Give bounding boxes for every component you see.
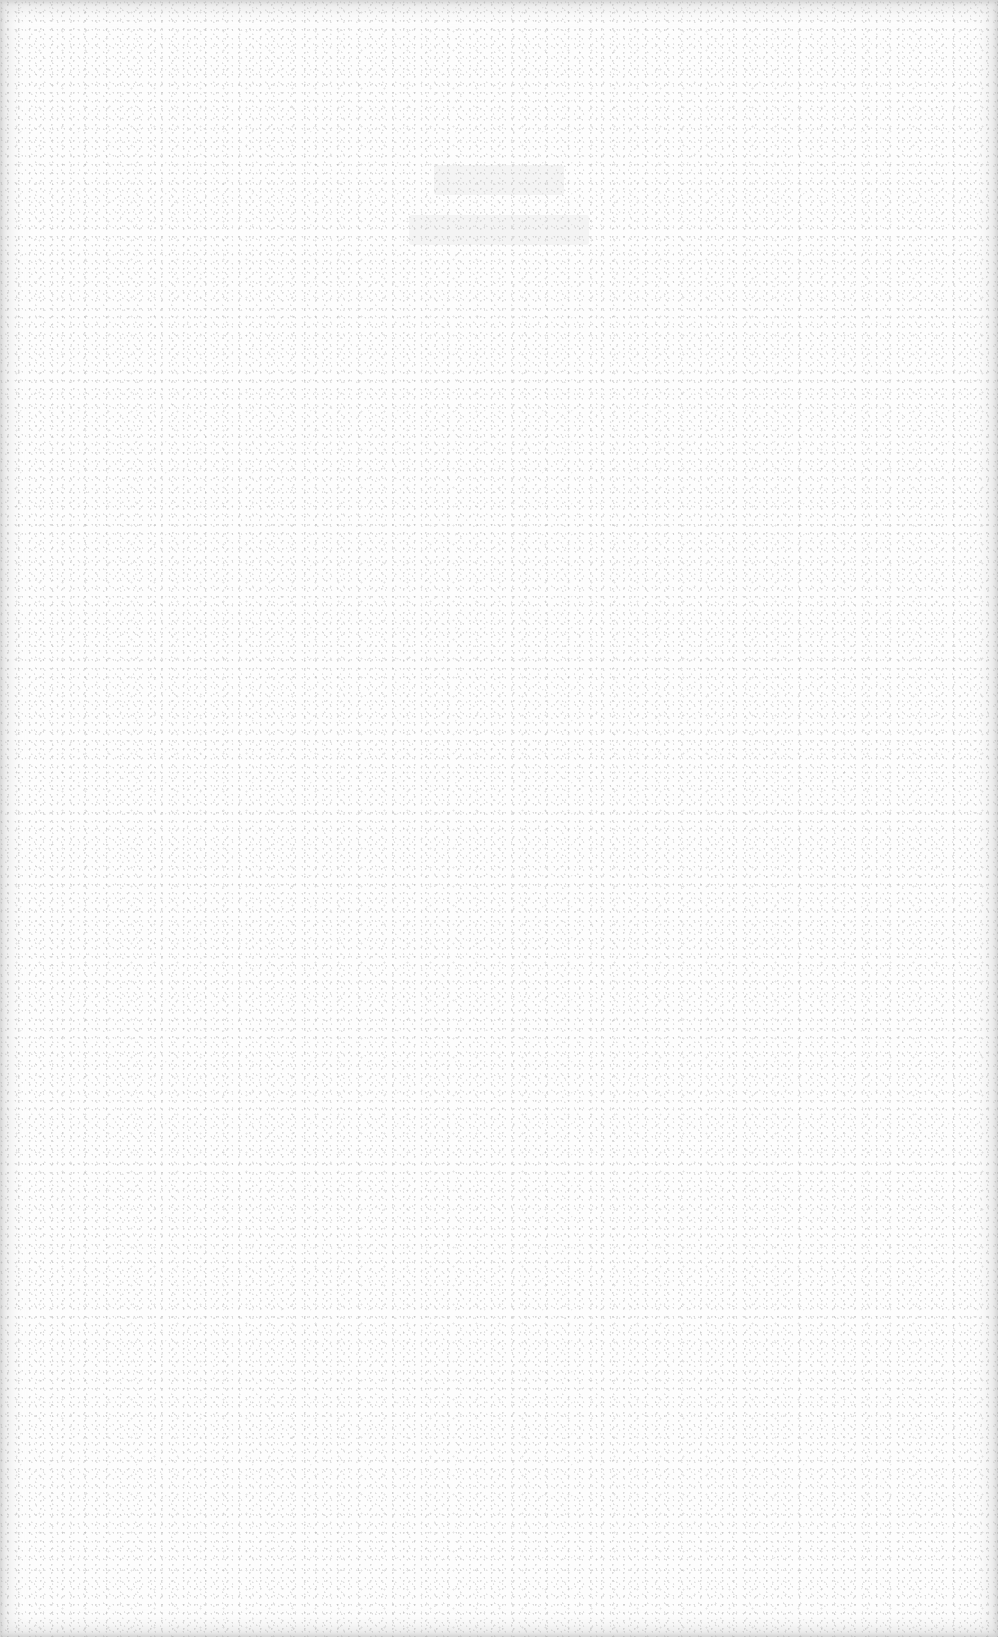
paper-speckle-texture-secondary [0, 0, 998, 1637]
faint-heading-line-2 [409, 215, 589, 245]
faint-heading-block [0, 160, 998, 245]
paper-speckle-texture [0, 0, 998, 1637]
faint-heading-line-1 [434, 165, 564, 195]
scanned-page [0, 0, 998, 1637]
